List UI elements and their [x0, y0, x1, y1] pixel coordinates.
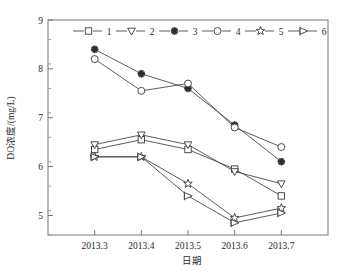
series-4 — [91, 56, 285, 151]
legend-label-1: 1 — [107, 27, 112, 37]
series-5 — [90, 152, 285, 221]
y-tick-label: 7 — [38, 113, 43, 123]
legend-label-5: 5 — [279, 27, 284, 37]
y-tick-label: 8 — [38, 64, 43, 74]
x-tick-label: 2013.6 — [222, 241, 248, 251]
data-point-4-4 — [278, 144, 285, 151]
series-line-6 — [95, 157, 282, 223]
y-tick-label: 5 — [38, 211, 43, 221]
x-tick-label: 2013.7 — [268, 241, 294, 251]
legend-marker-6 — [300, 28, 308, 35]
line-chart: 567892013.32013.42013.52013.62013.7日期DO浓… — [0, 0, 343, 280]
series-6 — [91, 152, 285, 227]
legend-marker-2 — [128, 28, 136, 35]
legend-label-4: 4 — [236, 27, 241, 37]
series-line-5 — [95, 157, 282, 218]
series-line-4 — [95, 59, 282, 147]
y-axis-title: DO浓度/(mg/L) — [5, 96, 17, 159]
data-point-4-3 — [231, 124, 238, 131]
data-point-6-2 — [184, 193, 192, 200]
legend-marker-4 — [214, 28, 221, 35]
data-point-4-0 — [91, 56, 98, 63]
y-tick-label: 6 — [38, 162, 43, 172]
data-point-4-2 — [185, 80, 192, 87]
chart-legend: 123456 — [73, 27, 327, 37]
x-tick-label: 2013.5 — [175, 241, 201, 251]
data-point-1-4 — [278, 193, 284, 199]
legend-label-6: 6 — [322, 27, 327, 37]
x-axis-title: 日期 — [182, 256, 202, 266]
data-point-2-4 — [278, 181, 286, 188]
x-tick-label: 2013.3 — [82, 241, 108, 251]
legend-label-3: 3 — [193, 27, 198, 37]
chart-container: 567892013.32013.42013.52013.62013.7日期DO浓… — [0, 0, 343, 280]
plot-frame — [48, 20, 328, 235]
legend-marker-5 — [256, 27, 265, 35]
y-tick-label: 9 — [38, 16, 43, 26]
legend-marker-1 — [85, 28, 91, 34]
x-tick-label: 2013.4 — [128, 241, 154, 251]
data-point-4-1 — [138, 87, 145, 94]
legend-label-2: 2 — [150, 27, 155, 37]
